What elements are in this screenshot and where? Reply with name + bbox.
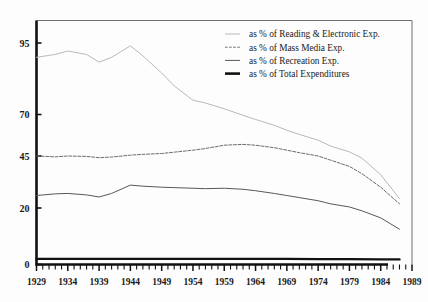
y-tick-label: 70 [20,109,30,120]
legend-label-3: as % of Total Expenditures [249,69,350,79]
legend-label-2: as % of Recreation Exp. [249,56,339,66]
x-tick-label: 1989 [403,277,422,287]
x-tick-label: 1934 [58,277,77,287]
x-tick-label: 1984 [371,277,390,287]
x-tick-label: 1974 [309,277,328,287]
x-tick-label: 1979 [340,277,359,287]
y-tick-label: 95 [20,38,30,49]
x-tick-label: 1954 [183,277,202,287]
x-tick-label: 1969 [277,277,296,287]
x-tick-label: 1929 [27,277,46,287]
x-tick-label: 1944 [121,277,140,287]
chart-container: 020457095 192919341939194419491954195919… [0,0,428,302]
x-tick-label: 1959 [215,277,234,287]
y-tick-label: 0 [25,259,30,270]
x-tick-label: 1949 [152,277,171,287]
legend-label-1: as % of Mass Media Exp. [249,43,345,53]
legend-label-0: as % of Reading & Electronic Exp. [249,29,380,39]
line-chart: 020457095 192919341939194419491954195919… [0,0,428,302]
series-line-3 [37,259,400,260]
x-tick-label: 1939 [90,277,109,287]
chart-background [0,0,428,302]
y-tick-label: 45 [20,151,30,162]
y-tick-label: 20 [20,203,30,214]
x-tick-label: 1964 [246,277,265,287]
